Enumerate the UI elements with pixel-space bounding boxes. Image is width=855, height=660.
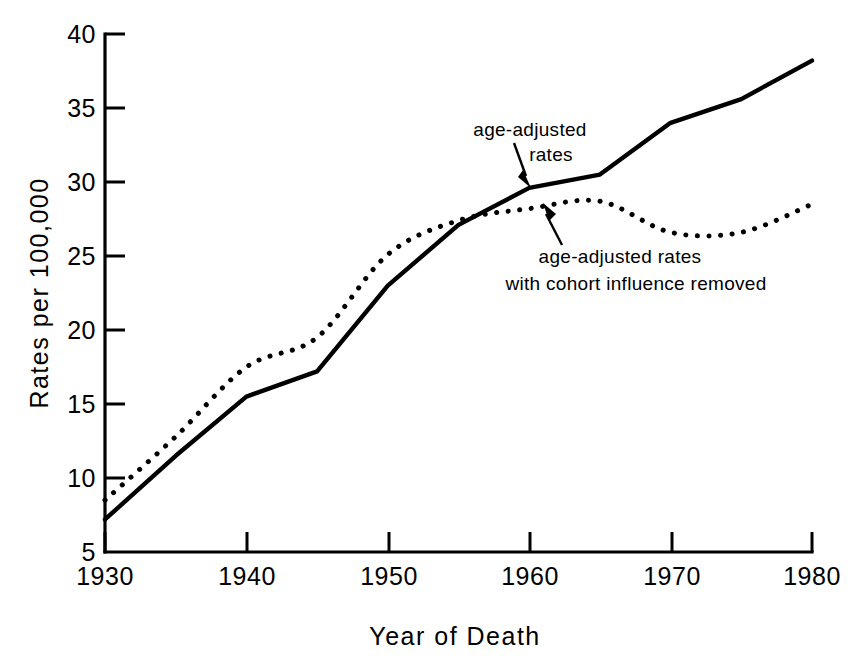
y-tick-label-30: 30 <box>67 168 96 196</box>
x-tick-label-1930: 1930 <box>76 562 134 590</box>
x-tick-label-1940: 1940 <box>218 562 276 590</box>
annotation-age-adjusted-line2: rates <box>529 144 573 165</box>
annotation-cohort-removed-line2: with cohort influence removed <box>504 273 766 294</box>
y-tick-label-40: 40 <box>67 20 96 48</box>
y-tick-label-10: 10 <box>67 464 96 492</box>
chart-figure: 40 35 30 25 20 15 10 5 1930 1940 1950 19… <box>0 0 855 660</box>
line-chart: 40 35 30 25 20 15 10 5 1930 1940 1950 19… <box>0 0 855 660</box>
annotation-age-adjusted-leader <box>514 143 526 176</box>
x-tick-label-1950: 1950 <box>360 562 418 590</box>
y-tick-label-20: 20 <box>67 316 96 344</box>
x-tick-label-1970: 1970 <box>643 562 701 590</box>
y-tick-label-35: 35 <box>67 94 96 122</box>
x-tick-label-1960: 1960 <box>501 562 559 590</box>
series-line-cohort-removed <box>105 200 812 500</box>
x-tick-label-1980: 1980 <box>783 562 841 590</box>
x-axis-title: Year of Death <box>369 622 540 650</box>
annotation-age-adjusted-line1: age-adjusted <box>473 119 586 140</box>
y-tick-label-25: 25 <box>67 242 96 270</box>
annotation-age-adjusted: age-adjusted rates <box>473 119 586 188</box>
y-axis-ticks <box>105 34 125 478</box>
x-axis-ticks <box>105 532 812 552</box>
annotation-cohort-removed-line1: age-adjusted rates <box>539 246 702 267</box>
y-axis-title: Rates per 100,000 <box>25 177 53 408</box>
annotation-cohort-removed: age-adjusted rates with cohort influence… <box>504 203 766 294</box>
y-tick-label-15: 15 <box>67 390 96 418</box>
